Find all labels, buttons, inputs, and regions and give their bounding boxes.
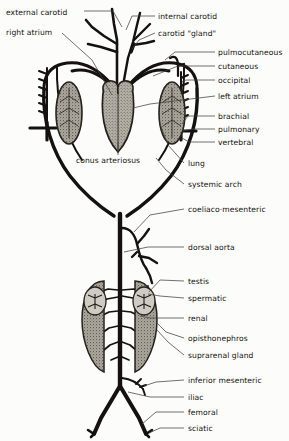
leader-opisthonephros (156, 322, 184, 338)
arterial-tree (30, 9, 197, 437)
label-iliac: iliac (188, 393, 204, 402)
label-pulmonary: pulmonary (218, 125, 260, 134)
label-systemic-arch: systemic arch (188, 180, 242, 189)
label-conus-arteriosus: conus arteriosus (76, 156, 140, 165)
leader-testis (149, 280, 184, 292)
label-brachial: brachial (218, 112, 249, 121)
label-vertebral: vertebral (218, 138, 253, 147)
label-testis: testis (188, 277, 209, 286)
label-carotid-gland: carotid "gland" (158, 29, 216, 38)
label-spermatic: spermatic (188, 294, 226, 303)
label-sciatic: sciatic (188, 424, 213, 433)
brachial-artery-left (30, 122, 56, 140)
leader-inferior-mesenteric (144, 380, 184, 386)
label-internal-carotid: internal carotid (158, 12, 217, 21)
iliac-femoral-sciatic (94, 386, 146, 434)
sciatic-branch-tips (88, 430, 152, 437)
label-coeliaco-mesenteric: coeliaco·mesenteric (188, 205, 266, 214)
label-cutaneous: cutaneous (218, 62, 258, 71)
label-left-atrium: left atrium (218, 92, 259, 101)
label-femoral: femoral (188, 408, 218, 417)
label-dorsal-aorta: dorsal aorta (188, 243, 235, 252)
label-inferior-mesenteric: inferior mesenteric (188, 376, 262, 385)
internal-carotid-branch (124, 13, 154, 80)
coeliaco-mesenteric-artery (122, 228, 157, 283)
label-renal: renal (188, 314, 208, 323)
leader-dorsal-aorta (124, 247, 184, 252)
label-pulmocutaneous: pulmocutaneous (218, 48, 282, 57)
leader-iliac (128, 392, 184, 397)
label-suprarenal-gland: suprarenal gland (188, 351, 253, 360)
label-lung: lung (188, 159, 205, 168)
label-opisthonephros: opisthonephros (188, 334, 248, 343)
label-external-carotid: external carotid (6, 8, 67, 17)
left-opisthonephros (82, 281, 106, 372)
label-right-atrium: right atrium (6, 28, 52, 37)
heart-ventricle (102, 81, 133, 152)
leader-femoral (142, 412, 184, 424)
leader-occipital (182, 80, 215, 82)
left-lung (56, 82, 82, 144)
leader-coeliaco-mesenteric (134, 209, 184, 232)
leader-sciatic (149, 428, 184, 433)
leader-vertebral (182, 138, 215, 142)
label-occipital: occipital (218, 76, 251, 85)
leader-brachial (182, 116, 215, 124)
right-lung (159, 82, 185, 144)
anatomical-diagram: external carotid right atrium internal c… (0, 0, 289, 441)
